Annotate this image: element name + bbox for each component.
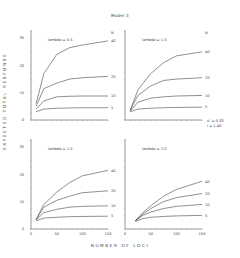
y-tick-label: 30: [19, 36, 24, 40]
series-line-n20: [135, 194, 202, 221]
series-label-n10: 10: [111, 94, 116, 98]
series-line-n40: [135, 181, 202, 221]
series-label-n40: 40: [205, 180, 210, 184]
series-label-n5: 5: [205, 214, 207, 218]
series-label-n10: 10: [111, 204, 116, 208]
series-line-n5: [36, 216, 108, 221]
series-line-n20: [36, 191, 108, 220]
y-tick-label: 0: [22, 118, 25, 122]
series-label-n40: 40: [111, 169, 116, 173]
series-label-n40: 40: [111, 39, 116, 43]
series-line-n5: [36, 108, 108, 112]
panel-lambda-label: lambda = 2.0: [142, 147, 167, 151]
x-tick-label: 150: [105, 232, 113, 236]
panel-lambda-label: lambda = 0.5: [48, 38, 72, 42]
series-line-n40: [130, 52, 202, 111]
series-label-n5: 5: [205, 105, 207, 109]
series-label-n5: 5: [111, 106, 113, 110]
series-label-n5: 5: [111, 214, 113, 218]
panel-lambda-label: lambda = 1.5: [48, 147, 72, 151]
x-tick-label: 50: [148, 232, 153, 236]
y-tick-label: 30: [19, 145, 24, 149]
x-tick-label: 100: [173, 232, 181, 236]
y-tick-label: 20: [19, 64, 24, 68]
series-label-n40: 40: [205, 50, 210, 54]
y-tick-label: 10: [19, 91, 24, 95]
legend-title-n: N: [205, 31, 208, 35]
x-tick-label: 100: [79, 232, 87, 236]
legend-title-n: N: [111, 31, 114, 35]
x-tick-label: 50: [54, 232, 59, 236]
series-line-n10: [36, 96, 108, 109]
x-tick-label: 0: [30, 232, 33, 236]
series-line-n5: [135, 215, 202, 221]
x-tick-label: 150: [199, 232, 207, 236]
series-label-n10: 10: [205, 203, 210, 207]
chart-canvas: 3020100lambda = 0.5N4020105lambda = 1.0N…: [0, 0, 240, 258]
series-line-n20: [130, 78, 202, 111]
y-tick-label: 0: [22, 227, 25, 231]
series-label-n10: 10: [205, 94, 210, 98]
series-label-n20: 20: [111, 189, 116, 193]
series-line-n20: [36, 76, 108, 106]
x-tick-label: 0: [124, 232, 127, 236]
series-line-n40: [36, 41, 108, 104]
series-label-n20: 20: [205, 192, 210, 196]
y-tick-label: 10: [19, 200, 24, 204]
series-label-n20: 20: [111, 75, 116, 79]
y-tick-label: 20: [19, 173, 24, 177]
series-line-n5: [130, 107, 202, 112]
panel-lambda-label: lambda = 1.0: [142, 38, 167, 42]
series-label-n20: 20: [205, 76, 210, 80]
